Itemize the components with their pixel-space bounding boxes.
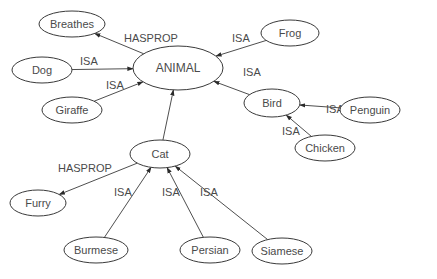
- node-penguin: Penguin: [340, 97, 400, 123]
- edge-label-burmese-to-cat: ISA: [114, 186, 132, 198]
- node-dog: Dog: [12, 57, 72, 83]
- node-animal: ANIMAL: [133, 46, 223, 90]
- node-burmese: Burmese: [64, 237, 128, 263]
- node-giraffe: Giraffe: [42, 97, 102, 123]
- node-penguin-label: Penguin: [350, 104, 390, 116]
- node-frog-label: Frog: [279, 27, 302, 39]
- node-bird: Bird: [244, 89, 300, 117]
- node-breathes: Breathes: [39, 11, 105, 37]
- node-burmese-label: Burmese: [74, 244, 118, 256]
- node-giraffe-label: Giraffe: [56, 104, 89, 116]
- node-siamese-label: Siamese: [261, 245, 304, 257]
- node-furry-label: Furry: [25, 197, 51, 209]
- edge-burmese-to-cat: [104, 167, 151, 237]
- node-frog: Frog: [261, 20, 319, 46]
- edge-persian-to-cat: [167, 168, 203, 238]
- node-cat-label: Cat: [151, 148, 168, 160]
- edge-bird-to-animal: [214, 81, 250, 94]
- semantic-network-diagram: HASPROPISAISAISAISAISAISAHASPROPISAISAIS…: [0, 0, 437, 279]
- edge-label-giraffe-to-animal: ISA: [106, 79, 124, 91]
- node-chicken: Chicken: [295, 135, 355, 161]
- edge-label-bird-to-animal: ISA: [243, 66, 261, 78]
- node-persian-label: Persian: [191, 244, 228, 256]
- edge-cat-to-animal: [163, 90, 174, 140]
- edge-dog-to-animal: [72, 69, 133, 70]
- node-chicken-label: Chicken: [305, 142, 345, 154]
- node-bird-label: Bird: [262, 97, 282, 109]
- edge-label-animal-to-breathes: HASPROP: [124, 32, 178, 44]
- node-dog-label: Dog: [32, 64, 52, 76]
- node-breathes-label: Breathes: [50, 18, 95, 30]
- edge-label-persian-to-cat: ISA: [162, 186, 180, 198]
- node-siamese: Siamese: [252, 238, 312, 264]
- node-animal-label: ANIMAL: [156, 61, 201, 75]
- node-furry: Furry: [10, 190, 66, 216]
- node-cat: Cat: [130, 140, 190, 168]
- node-persian: Persian: [180, 237, 240, 263]
- edge-label-frog-to-animal: ISA: [232, 32, 250, 44]
- edge-label-cat-to-furry: HASPROP: [58, 162, 112, 174]
- edge-label-dog-to-animal: ISA: [80, 55, 98, 67]
- edge-siamese-to-cat: [175, 166, 267, 240]
- edge-label-siamese-to-cat: ISA: [200, 186, 218, 198]
- edge-label-chicken-to-bird: ISA: [282, 125, 300, 137]
